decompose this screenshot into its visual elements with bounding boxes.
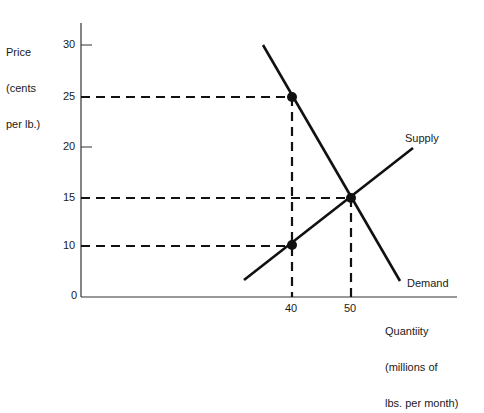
point-equilibrium: [346, 193, 356, 203]
x-label-line-2: (millions of: [385, 361, 458, 373]
y-label-line-1: Price: [6, 46, 40, 58]
y-axis-label: Price (cents per lb.): [6, 22, 40, 142]
point-demand-25: [287, 92, 297, 102]
x-label-line-3: lbs. per month): [385, 397, 458, 409]
x-tick-label-50: 50: [344, 302, 356, 314]
y-tick-label-30: 30: [63, 38, 75, 50]
x-tick-label-40: 40: [285, 302, 297, 314]
x-label-line-1: Quantiity: [385, 325, 458, 337]
x-axis-label: Quantiity (millions of lbs. per month): [385, 301, 458, 413]
y-tick-label-20: 20: [63, 140, 75, 152]
point-supply-10: [287, 240, 297, 250]
y-tick-label-15: 15: [63, 191, 75, 203]
demand-label: Demand: [407, 277, 449, 289]
y-label-line-3: per lb.): [6, 118, 40, 130]
supply-label: Supply: [405, 132, 439, 144]
y-tick-label-0: 0: [71, 289, 77, 301]
y-label-line-2: (cents: [6, 82, 40, 94]
y-tick-label-25: 25: [63, 90, 75, 102]
y-tick-label-10: 10: [63, 239, 75, 251]
